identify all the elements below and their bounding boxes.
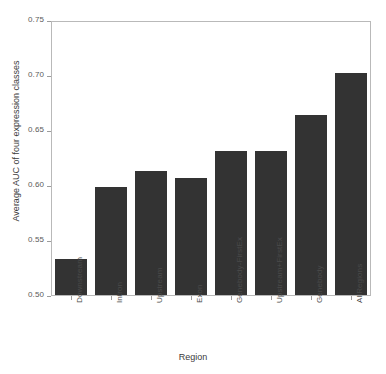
y-axis-tick-label: 0.60: [28, 180, 44, 189]
x-axis-title: Region: [0, 352, 386, 362]
y-axis-tick-label: 0.65: [28, 125, 44, 134]
x-axis-tick-label: Exon: [195, 284, 204, 303]
y-axis-tick-mark: [47, 241, 51, 242]
y-axis-tick-label: 0.50: [28, 290, 44, 299]
x-axis-tick-label: Genebody: [315, 265, 324, 303]
x-axis-tick-label: Intron: [115, 282, 124, 303]
y-axis-title: Average AUC of four expression classes: [11, 41, 21, 241]
x-axis-tick-label: Upstream: [155, 268, 164, 303]
y-axis-tick-group: 0.500.550.600.650.700.75: [0, 0, 51, 374]
y-axis-tick-label: 0.75: [28, 15, 44, 24]
bar: [95, 187, 127, 295]
x-axis-tick-label: Downstream: [75, 257, 84, 303]
x-axis-tick-mark: [231, 296, 232, 300]
bar: [335, 73, 367, 295]
bar: [175, 178, 207, 295]
y-axis-tick-label: 0.55: [28, 235, 44, 244]
y-axis-tick-mark: [47, 76, 51, 77]
x-axis-tick-label: Upstream+FirstEx: [275, 237, 284, 303]
x-axis-tick-label: Genebody-FirstEx: [235, 237, 244, 303]
x-axis-tick-mark: [191, 296, 192, 300]
y-axis-tick-label: 0.70: [28, 70, 44, 79]
y-axis-tick-mark: [47, 21, 51, 22]
x-axis-tick-mark: [111, 296, 112, 300]
x-axis-tick-mark: [71, 296, 72, 300]
y-axis-tick-mark: [47, 296, 51, 297]
x-axis-tick-mark: [351, 296, 352, 300]
x-axis-tick-mark: [271, 296, 272, 300]
x-axis-tick-mark: [151, 296, 152, 300]
x-axis-tick-mark: [311, 296, 312, 300]
y-axis-tick-mark: [47, 131, 51, 132]
bar-chart-figure: 0.500.550.600.650.700.75 Average AUC of …: [0, 0, 386, 374]
y-axis-tick-mark: [47, 186, 51, 187]
x-axis-tick-label: AllRegions: [355, 264, 364, 303]
